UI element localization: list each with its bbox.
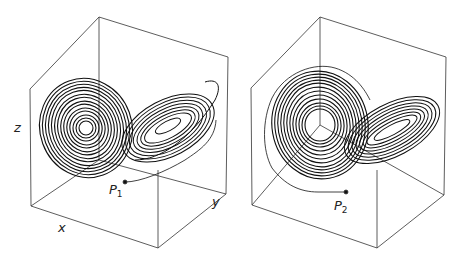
point-p1-label: P1 (109, 182, 123, 199)
point-p1-marker (123, 180, 127, 184)
left-panel (26, 17, 228, 248)
axis-label-y: y (211, 194, 220, 209)
axis-label-x: x (57, 220, 66, 235)
right-box (251, 17, 446, 248)
point-p2-marker (344, 190, 348, 194)
point-p2-label: P2 (334, 198, 348, 215)
left-attractor-wing-right (111, 80, 226, 176)
lorenz-attractor-figure: z y x P1 (0, 0, 463, 259)
left-attractor-wing-left (26, 65, 147, 190)
right-panel (251, 17, 450, 248)
axis-label-z: z (13, 120, 22, 135)
